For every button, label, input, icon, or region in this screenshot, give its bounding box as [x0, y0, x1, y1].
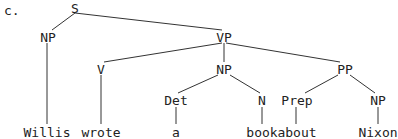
edge-s-np — [52, 13, 75, 30]
edge-pp-np — [350, 75, 375, 93]
edge-s-vp — [75, 13, 222, 30]
leaf-willis: Willis — [24, 126, 71, 139]
leaf-book: book — [246, 126, 277, 139]
leaf-a: a — [172, 126, 180, 139]
node-np-pobj: NP — [370, 94, 386, 107]
node-np-subject: NP — [40, 31, 56, 44]
leaf-about: about — [277, 126, 316, 139]
edge-vp-pp — [226, 43, 340, 62]
edge-pp-prep — [305, 75, 338, 93]
edge-np-det — [178, 75, 218, 93]
edge-np-n — [230, 75, 260, 93]
node-s: S — [71, 2, 79, 15]
leaf-nixon: Nixon — [358, 126, 397, 139]
node-vp: VP — [216, 31, 232, 44]
node-n: N — [258, 94, 266, 107]
leaf-wrote: wrote — [81, 126, 120, 139]
node-det: Det — [164, 94, 187, 107]
node-pp: PP — [337, 63, 353, 76]
node-prep: Prep — [281, 94, 312, 107]
node-np-object: NP — [216, 63, 232, 76]
node-v: V — [97, 63, 105, 76]
edge-vp-v — [104, 43, 222, 62]
example-label: c. — [4, 3, 20, 18]
